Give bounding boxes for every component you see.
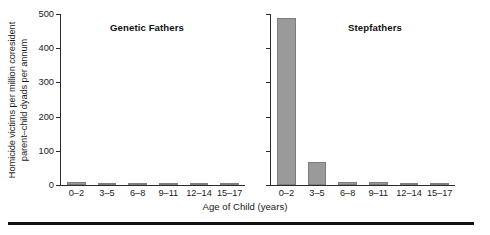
x-tick-label: 15–17: [217, 188, 243, 199]
y-axis-title-line1: Homicide victims per million coresident: [6, 22, 18, 178]
bar: [128, 183, 146, 185]
bar: [67, 182, 85, 185]
bar: [220, 183, 238, 185]
plot-area-stepfathers: [271, 14, 455, 185]
x-axis-line-left: [60, 185, 245, 186]
x-tick-label: 9–11: [368, 188, 388, 199]
x-tick-label: 6–8: [130, 188, 145, 199]
x-axis-title: Age of Child (years): [0, 201, 490, 212]
x-tick-label: 12–14: [396, 188, 422, 199]
y-tick-label: 300: [38, 77, 54, 87]
y-axis-tick: [56, 48, 60, 49]
x-axis-line-right: [270, 185, 455, 186]
panel-genetic-fathers: Genetic Fathers: [60, 14, 245, 186]
x-tick-label: 9–11: [158, 188, 178, 199]
bar: [159, 183, 177, 185]
y-tick-label: 100: [38, 146, 54, 156]
y-axis-tick: [56, 151, 60, 152]
y-axis-tick: [56, 82, 60, 83]
y-axis-tick: [266, 151, 270, 152]
x-tick-label: 15–17: [427, 188, 453, 199]
y-axis-tick: [266, 48, 270, 49]
y-axis-tick: [266, 185, 270, 186]
bottom-divider-rule: [8, 222, 474, 225]
panel-stepfathers: Stepfathers: [270, 14, 455, 186]
x-axis-tick-labels-left: 0–23–56–89–1112–1415–17: [60, 188, 245, 200]
y-axis-tick: [266, 82, 270, 83]
figure-container: Homicide victims per million coresident …: [0, 0, 490, 235]
bar: [190, 183, 208, 185]
x-tick-label: 12–14: [186, 188, 212, 199]
y-tick-label: 400: [38, 43, 54, 53]
y-tick-label: 0: [49, 180, 54, 190]
y-axis-tick: [56, 117, 60, 118]
y-axis-tick: [266, 14, 270, 15]
y-axis-tick: [266, 117, 270, 118]
y-tick-label: 200: [38, 112, 54, 122]
y-tick-label: 500: [38, 9, 54, 19]
x-tick-label: 0–2: [69, 188, 84, 199]
plot-area-genetic-fathers: [61, 14, 245, 185]
bar: [308, 162, 326, 185]
bar: [369, 182, 387, 185]
x-tick-label: 3–5: [309, 188, 324, 199]
bar: [400, 183, 418, 185]
y-axis-tick: [56, 14, 60, 15]
bar: [277, 18, 295, 185]
y-axis-tick: [56, 185, 60, 186]
x-tick-label: 0–2: [279, 188, 294, 199]
bar: [338, 182, 356, 185]
y-axis-tick-labels: 0100200300400500: [28, 0, 58, 200]
x-tick-label: 6–8: [340, 188, 355, 199]
bar: [98, 183, 116, 185]
x-axis-tick-labels-right: 0–23–56–89–1112–1415–17: [270, 188, 455, 200]
x-tick-label: 3–5: [99, 188, 114, 199]
bar: [430, 183, 448, 185]
